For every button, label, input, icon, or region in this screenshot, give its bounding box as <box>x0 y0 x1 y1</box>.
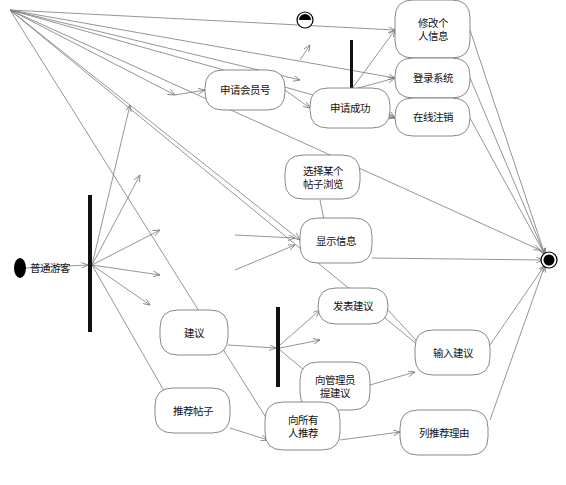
transition-arrow <box>92 105 130 265</box>
activity-label: 向所有 <box>288 414 318 426</box>
transition-arrow <box>230 428 268 440</box>
activity-apply-member[interactable]: 申请会员号 <box>205 70 285 110</box>
fork-main-bar[interactable] <box>88 195 92 332</box>
fork-suggest-bar[interactable] <box>276 307 280 387</box>
activity-label: 人推荐 <box>288 427 318 439</box>
transition-arrow <box>10 10 300 240</box>
activity-input-suggest[interactable]: 输入建议 <box>415 330 490 375</box>
activity-post-suggest[interactable]: 发表建议 <box>318 288 388 324</box>
final-node[interactable] <box>541 252 557 268</box>
activity-label: 输入建议 <box>433 347 474 359</box>
activity-edit-info[interactable]: 修改个人信息 <box>395 0 470 58</box>
transition-arrow <box>175 90 205 95</box>
start-node[interactable]: 普通游客 <box>14 258 71 278</box>
activity-recommend-all[interactable]: 向所有人推荐 <box>265 402 340 450</box>
transition-arrow <box>92 265 160 275</box>
activity-diagram-canvas: 申请会员号申请成功修改个人信息登录系统在线注销选择某个帖子浏览显示信息建议发表建… <box>0 0 566 485</box>
activity-label: 选择某个 <box>303 165 344 177</box>
activity-suggest[interactable]: 建议 <box>160 310 228 355</box>
transition-arrow <box>470 118 545 255</box>
transition-arrow <box>351 30 395 90</box>
activity-label: 登录系统 <box>413 72 454 84</box>
activity-label: 向管理员 <box>315 374 355 386</box>
top-final-node[interactable] <box>297 12 313 28</box>
transition-arrow <box>92 265 150 305</box>
activity-label: 帖子浏览 <box>303 178 343 190</box>
activity-label: 在线注销 <box>413 111 453 123</box>
activity-label: 推荐帖子 <box>173 405 213 417</box>
transition-arrow <box>490 265 545 420</box>
transition-arrow <box>228 345 276 348</box>
activity-recommend-post[interactable]: 推荐帖子 <box>155 388 230 433</box>
activity-apply-success[interactable]: 申请成功 <box>310 88 390 128</box>
activity-nodes: 申请会员号申请成功修改个人信息登录系统在线注销选择某个帖子浏览显示信息建议发表建… <box>155 0 490 455</box>
activity-label: 申请成功 <box>330 102 370 114</box>
activity-recommend-reason[interactable]: 列推荐理由 <box>400 410 488 455</box>
transition-arrow <box>280 340 320 348</box>
transition-arrow <box>370 372 415 385</box>
transition-arrow <box>372 258 543 260</box>
initial-state-icon <box>14 258 26 278</box>
activity-label: 提建议 <box>320 387 351 399</box>
activity-label: 修改个 <box>418 17 449 29</box>
transition-arrow <box>92 175 140 265</box>
activity-label: 建议 <box>184 327 205 339</box>
activity-label: 人信息 <box>418 30 448 42</box>
activity-choose-post[interactable]: 选择某个帖子浏览 <box>285 155 360 199</box>
final-state-inner-icon <box>544 255 555 266</box>
transition-arrow <box>340 432 400 440</box>
transition-arrow <box>235 245 295 270</box>
activity-label: 发表建议 <box>333 300 374 312</box>
transition-arrow <box>10 10 175 95</box>
transition-arrow <box>490 265 545 345</box>
actor-label: 普通游客 <box>30 262 71 274</box>
activity-label: 列推荐理由 <box>419 427 469 439</box>
transition-arrow <box>92 230 160 265</box>
activity-login[interactable]: 登录系统 <box>395 58 470 98</box>
activity-show-info[interactable]: 显示信息 <box>300 218 372 263</box>
transition-arrow <box>470 78 545 255</box>
transition-arrow <box>300 45 310 60</box>
activity-label: 申请会员号 <box>220 84 270 96</box>
transition-arrow <box>280 310 320 345</box>
activity-logout[interactable]: 在线注销 <box>395 98 470 136</box>
activity-label: 显示信息 <box>316 235 356 247</box>
transition-arrow <box>470 30 545 255</box>
